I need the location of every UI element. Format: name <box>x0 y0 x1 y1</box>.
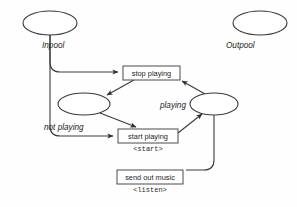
node-outpool[interactable] <box>233 11 287 35</box>
node-playing[interactable] <box>190 93 238 115</box>
box-start-playing-label: start playing <box>128 132 168 141</box>
send-out-music-sublabel: <listen> <box>133 186 167 194</box>
box-stop-playing-label: stop playing <box>132 69 171 78</box>
edge-start-playing-to-playing <box>178 114 202 133</box>
node-inpool[interactable] <box>23 11 77 35</box>
label-not-playing: not playing <box>44 123 84 132</box>
label-outpool: Outpool <box>226 41 255 50</box>
edge-not-playing-to-start-playing <box>100 113 136 127</box>
edge-stop-playing-to-not-playing <box>107 80 134 95</box>
label-inpool: Inpool <box>42 41 64 50</box>
node-not-playing[interactable] <box>58 93 110 115</box>
edge-playing-to-stop-playing <box>182 81 205 94</box>
start-playing-sublabel: <start> <box>133 145 162 153</box>
workflow-diagram: stop playing start playing <start> send … <box>0 0 297 207</box>
diagram-canvas: stop playing start playing <start> send … <box>0 0 297 207</box>
box-send-out-music-label: send out music <box>125 173 175 182</box>
label-playing: playing <box>159 101 186 110</box>
edge-inpool-to-start-playing <box>50 35 113 136</box>
